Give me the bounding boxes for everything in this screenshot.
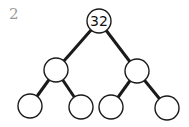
node-level2-1[interactable] bbox=[18, 94, 42, 118]
node-level1-left[interactable] bbox=[44, 58, 68, 82]
root-node-label: 32 bbox=[90, 13, 108, 29]
node-level1-right[interactable] bbox=[125, 59, 149, 83]
node-level2-4[interactable] bbox=[155, 96, 179, 120]
node-level2-2[interactable] bbox=[69, 95, 93, 119]
factor-tree-diagram: 32 bbox=[0, 0, 189, 127]
node-level2-3[interactable] bbox=[99, 95, 123, 119]
tree-nodes: 32 bbox=[18, 9, 179, 120]
